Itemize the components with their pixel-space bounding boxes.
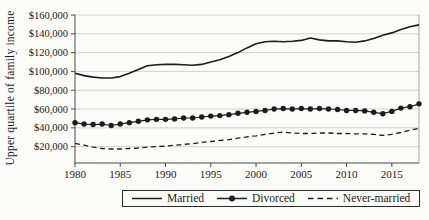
data-point-divorced [190,115,195,120]
data-point-divorced [344,108,349,113]
data-point-divorced [326,106,331,111]
y-tick-label: $160,000 [29,10,68,21]
data-point-divorced [154,117,159,122]
y-tick-label: $20,000 [34,141,68,152]
data-point-divorced [235,111,240,116]
data-point-divorced [181,115,186,120]
legend: MarriedDivorcedNever-married [122,190,420,207]
data-point-divorced [163,117,168,122]
data-point-divorced [253,109,258,114]
data-point-divorced [398,105,403,110]
x-tick-label: 2015 [381,168,404,180]
y-tick-label: $120,000 [29,47,68,58]
series-line-never-married [75,128,419,149]
data-point-divorced [317,106,322,111]
data-point-divorced [290,106,295,111]
data-point-divorced [109,123,114,128]
x-tick-label: 2005 [290,168,313,180]
data-point-divorced [72,120,77,125]
data-point-divorced [299,106,304,111]
data-point-divorced [362,108,367,113]
legend-item-never-married: Never-married [308,192,410,204]
data-point-divorced [118,121,123,126]
legend-item-divorced: Divorced [217,192,295,204]
y-tick-label: $80,000 [34,85,68,96]
x-tick-label: 2010 [336,168,359,180]
data-point-divorced [389,109,394,114]
data-point-divorced [308,106,313,111]
data-point-divorced [416,101,421,106]
data-point-divorced [127,120,132,125]
divorced-line-sample-icon [217,194,247,203]
data-point-divorced [380,111,385,116]
y-tick-label: $60,000 [34,104,68,115]
legend-label: Never-married [343,192,410,204]
x-tick-label: 1995 [200,168,223,180]
x-tick-label: 1990 [155,168,178,180]
data-point-divorced [407,104,412,109]
never-married-line-sample-icon [308,194,338,203]
line-chart: $20,000$40,000$60,000$80,000$100,000$120… [0,0,429,220]
legend-item-married: Married [132,192,204,204]
y-tick-label: $140,000 [29,28,68,39]
y-tick-label: $40,000 [34,122,68,133]
series-line-married [75,25,419,78]
data-point-divorced [244,110,249,115]
data-point-divorced [262,108,267,113]
legend-label: Divorced [252,192,295,204]
data-point-divorced [99,121,104,126]
data-point-divorced [371,110,376,115]
data-point-divorced [199,114,204,119]
y-tick-label: $100,000 [29,66,68,77]
data-point-divorced [172,116,177,121]
data-point-divorced [81,121,86,126]
legend-label: Married [167,192,204,204]
data-point-divorced [271,106,276,111]
data-point-divorced [217,113,222,118]
data-point-divorced [226,112,231,117]
data-point-divorced [90,122,95,127]
x-tick-label: 1985 [109,168,132,180]
data-point-divorced [353,108,358,113]
data-point-divorced [145,117,150,122]
married-line-sample-icon [132,194,162,203]
x-tick-label: 1980 [64,168,87,180]
chart-figure: Upper quartile of family income $20,000$… [0,0,429,220]
data-point-divorced [136,119,141,124]
data-point-divorced [208,113,213,118]
x-tick-label: 2000 [245,168,268,180]
data-point-divorced [335,107,340,112]
data-point-divorced [281,106,286,111]
